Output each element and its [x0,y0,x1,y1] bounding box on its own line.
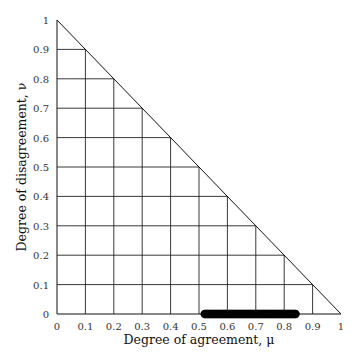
x-tick-label: 0 [54,321,60,332]
y-tick-label: 0.8 [33,74,49,85]
data-point [291,310,299,318]
x-tick-label: 0.5 [191,321,207,332]
y-tick-label: 0.7 [33,103,49,114]
x-tick-label: 0.8 [276,321,292,332]
x-tick-label: 0.7 [248,321,264,332]
y-tick-label: 0.1 [33,280,49,291]
y-tick-label: 1 [43,15,49,26]
x-tick-label: 0.2 [106,321,122,332]
y-tick-label: 0.5 [33,162,49,173]
x-axis-label: Degree of agreement, μ [124,332,275,347]
y-tick-label: 0.9 [33,44,49,55]
y-tick-label: 0.2 [33,250,49,261]
x-tick-label: 0.3 [134,321,150,332]
data-points [200,310,299,318]
y-tick-labels: 00.10.20.30.40.50.60.70.80.91 [33,15,49,320]
grid-lines [57,49,313,314]
x-tick-label: 1 [338,321,344,332]
y-tick-label: 0.6 [33,133,49,144]
y-axis-label: Degree of disagreement, ν [14,83,29,252]
y-tick-label: 0.3 [33,221,49,232]
y-tick-label: 0 [43,309,49,320]
y-tick-label: 0.4 [33,191,49,202]
x-tick-label: 0.9 [305,321,321,332]
intuitionistic-fuzzy-triangle-chart: 00.10.20.30.40.50.60.70.80.91 00.10.20.3… [0,0,359,363]
x-tick-labels: 00.10.20.30.40.50.60.70.80.91 [54,321,344,332]
x-tick-label: 0.1 [77,321,93,332]
x-tick-label: 0.6 [219,321,235,332]
x-tick-label: 0.4 [163,321,179,332]
